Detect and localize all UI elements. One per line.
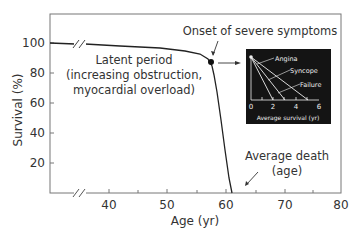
x-tick-60: 60: [218, 198, 233, 212]
x-tick-80: 80: [333, 198, 348, 212]
inset-x-title: Average survival (yr): [257, 114, 320, 122]
curve-break-icon: [73, 40, 86, 48]
inset-chart: Angina Syncope Failure 0 2 4 6 Average s…: [246, 49, 331, 124]
inset-x-4: 4: [294, 103, 299, 111]
x-tick-50: 50: [159, 198, 174, 212]
inset-label-syncope: Syncope: [290, 67, 318, 75]
inset-x-0: 0: [249, 103, 253, 111]
inset-label-angina: Angina: [275, 55, 298, 63]
x-axis-break-icon: [73, 189, 86, 197]
y-axis-title: Survival (%): [11, 74, 25, 147]
y-tick-40: 40: [30, 126, 45, 140]
x-tick-70: 70: [277, 198, 292, 212]
death-line-1: Average death: [245, 149, 329, 163]
x-axis-title: Age (yr): [171, 214, 219, 228]
y-tick-100: 100: [22, 36, 45, 50]
inset-label-failure: Failure: [300, 81, 321, 89]
x-ticks: [109, 189, 313, 193]
death-arrow-icon: [247, 172, 258, 184]
latent-line-2: (increasing obstruction,: [66, 68, 202, 82]
inset-x-2: 2: [271, 103, 275, 111]
y-tick-80: 80: [30, 66, 45, 80]
x-tick-40: 40: [101, 198, 116, 212]
inset-x-6: 6: [317, 103, 322, 111]
y-tick-60: 60: [30, 96, 45, 110]
onset-annotation: Onset of severe symptoms: [183, 24, 338, 38]
latent-line-1: Latent period: [95, 53, 172, 67]
latent-line-3: myocardial overload): [73, 83, 195, 97]
onset-marker: [208, 59, 214, 65]
survival-chart: 100 80 60 40 20 40 50 60 70 80 Age (yr) …: [0, 0, 362, 235]
death-line-2: (age): [272, 164, 302, 178]
y-ticks: [50, 43, 54, 163]
y-tick-20: 20: [30, 156, 45, 170]
